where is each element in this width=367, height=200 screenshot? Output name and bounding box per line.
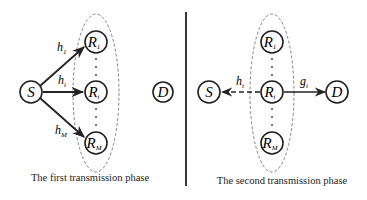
caption-second-phase: The second transmission phase — [217, 175, 348, 186]
node-relay-i: Ri — [85, 81, 107, 103]
first-phase-panel: h1 hi hM S R1 Ri RM D The first tran — [20, 14, 173, 183]
svg-text:D: D — [331, 84, 343, 100]
edge-label-h1: h1 — [57, 40, 67, 56]
node-relay-1: R1 — [261, 31, 283, 53]
edge-label-hM: hM — [55, 123, 68, 139]
node-relay-M: RM — [85, 132, 107, 154]
svg-text:S: S — [27, 84, 35, 100]
edge-label-hi: hi — [58, 73, 66, 89]
node-source: S — [20, 81, 42, 103]
edge-label-hi: hi — [236, 74, 244, 90]
node-relay-i: Ri — [261, 81, 283, 103]
node-relay-1: R1 — [85, 31, 107, 53]
node-relay-M: RM — [261, 132, 283, 154]
edge-label-gi: gi — [300, 74, 308, 90]
caption-first-phase: The first transmission phase — [31, 172, 149, 183]
two-phase-relay-diagram: h1 hi hM S R1 Ri RM D The first tran — [0, 0, 367, 200]
node-source: S — [198, 81, 220, 103]
node-destination: D — [326, 81, 348, 103]
svg-text:D: D — [157, 84, 169, 100]
svg-text:S: S — [205, 84, 213, 100]
second-phase-panel: hi gi S R1 Ri RM D The second transmissi… — [198, 14, 348, 186]
node-destination: D — [153, 82, 173, 102]
